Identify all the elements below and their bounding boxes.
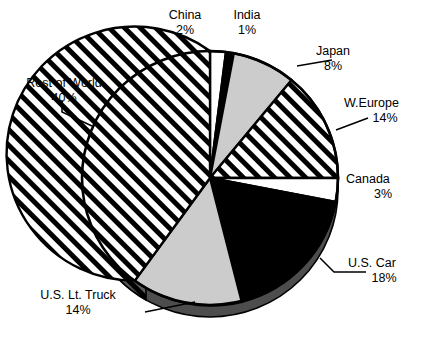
pie-label-china: China 2% — [148, 8, 222, 38]
pie-label-weurope-value: 14% — [344, 111, 426, 126]
pie-label-china-value: 2% — [148, 23, 222, 38]
pie-label-japan-name: Japan — [300, 44, 366, 59]
pie-label-us-lt-truck-value: 14% — [18, 303, 138, 318]
pie-slices — [7, 27, 338, 306]
pie-label-canada: Canada 3% — [346, 172, 420, 202]
pie-label-us-car-value: 18% — [348, 271, 420, 286]
pie-label-japan: Japan 8% — [300, 44, 366, 74]
pie-label-canada-name: Canada — [346, 172, 420, 187]
pie-label-india-name: India — [214, 8, 280, 23]
pie-label-china-name: China — [148, 8, 222, 23]
pie-label-canada-value: 3% — [346, 187, 420, 202]
pie-label-weurope: W.Europe 14% — [344, 96, 426, 126]
pie-label-us-lt-truck-name: U.S. Lt. Truck — [18, 288, 138, 303]
pie-label-weurope-name: W.Europe — [344, 96, 426, 111]
pie-label-india-value: 1% — [214, 23, 280, 38]
pie-label-rest-of-world: Rest of World 40% — [8, 76, 120, 106]
pie-label-us-car-name: U.S. Car — [348, 256, 420, 271]
pie-label-us-car: U.S. Car 18% — [348, 256, 420, 286]
pie-label-japan-value: 8% — [300, 59, 366, 74]
pie-label-us-lt-truck: U.S. Lt. Truck 14% — [18, 288, 138, 318]
pie-label-rest-of-world-value: 40% — [8, 91, 120, 106]
pie-label-india: India 1% — [214, 8, 280, 38]
pie-chart: China 2% India 1% Japan 8% W.Europe 14% … — [0, 0, 426, 346]
pie-label-rest-of-world-name: Rest of World — [8, 76, 120, 91]
